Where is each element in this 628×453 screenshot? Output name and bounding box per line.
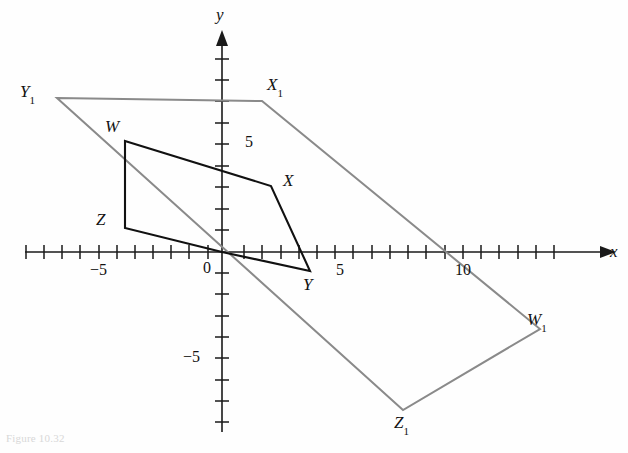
y-tick-label-neg5: −5 <box>183 349 200 365</box>
vertex-label-X1-base: X <box>267 75 277 94</box>
vertex-label-Y: Y <box>303 276 312 293</box>
vertex-label-Z: Z <box>96 211 105 228</box>
figure-caption: Figure 10.32 <box>6 432 65 444</box>
x-tick-label-10: 10 <box>455 262 471 278</box>
vertex-label-Y1: Y1 <box>20 83 35 103</box>
origin-label: 0 <box>203 260 211 276</box>
y-axis-label: y <box>216 6 224 23</box>
y-axis-group <box>215 30 229 432</box>
y-axis-arrowhead <box>216 30 228 46</box>
vertex-label-X1: X1 <box>267 76 283 96</box>
vertex-label-X1-sub: 1 <box>277 87 283 99</box>
y-tick-label-5: 5 <box>245 134 253 150</box>
vertex-label-Y-base: Y <box>303 275 312 294</box>
vertex-label-W: W <box>105 118 119 135</box>
vertex-label-X-base: X <box>283 171 293 190</box>
x-tick-label-5: 5 <box>336 262 344 278</box>
vertex-label-Z-base: Z <box>96 210 105 229</box>
x-axis-group <box>25 245 616 259</box>
vertex-label-Z1-sub: 1 <box>403 425 409 437</box>
coordinate-plane-svg <box>0 0 628 453</box>
vertex-label-X: X <box>283 172 293 189</box>
vertex-label-W1-base: W <box>527 310 541 329</box>
vertex-label-Y1-sub: 1 <box>29 94 35 106</box>
vertex-label-W1: W1 <box>527 311 547 331</box>
vertex-label-W-base: W <box>105 117 119 136</box>
x-axis-label: x <box>610 243 618 260</box>
figure-container: x y 0 −5 5 10 5 −5 W X Y Z W1 X1 Y1 Z1 F… <box>0 0 628 453</box>
vertex-label-Z1: Z1 <box>394 414 409 434</box>
vertex-label-W1-sub: 1 <box>541 322 547 334</box>
x-tick-label-neg5: −5 <box>90 262 107 278</box>
